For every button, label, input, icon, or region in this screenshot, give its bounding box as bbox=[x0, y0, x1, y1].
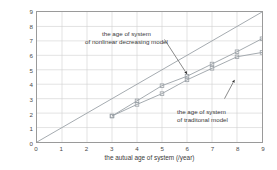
y-tick-label: 9 bbox=[23, 8, 33, 15]
x-tick-label: 1 bbox=[59, 145, 62, 152]
traditional-annotation-line2: of traditonal model bbox=[177, 116, 228, 124]
x-tick-label: 0 bbox=[34, 145, 37, 152]
y-tick-label: 4 bbox=[23, 81, 33, 88]
plot-area: the age of system of nonlinear decreasin… bbox=[36, 11, 263, 143]
y-tick-label: 3 bbox=[23, 96, 33, 103]
nonlinear-annotation-line1: the age of system bbox=[85, 30, 168, 38]
x-axis-title: the autual age of system (/year) bbox=[36, 154, 263, 161]
y-tick-label: 5 bbox=[23, 66, 33, 73]
x-tick-label: 9 bbox=[261, 145, 264, 152]
nonlinear-annotation-line2: of nonlinear decreasing model bbox=[85, 38, 168, 46]
y-tick-label: 1 bbox=[23, 125, 33, 132]
chart-figure: the equivalent age of system (/year) the… bbox=[0, 0, 277, 170]
x-tick-label: 3 bbox=[110, 145, 113, 152]
x-tick-label: 6 bbox=[186, 145, 189, 152]
traditional-annotation-line1: the age of system bbox=[177, 108, 228, 116]
x-tick-label: 8 bbox=[236, 145, 239, 152]
y-tick-label: 6 bbox=[23, 52, 33, 59]
x-tick-label: 7 bbox=[211, 145, 214, 152]
x-tick-label: 4 bbox=[135, 145, 138, 152]
y-tick-label: 2 bbox=[23, 110, 33, 117]
y-tick-label: 0 bbox=[23, 140, 33, 147]
x-tick-label: 5 bbox=[160, 145, 163, 152]
y-tick-label: 7 bbox=[23, 37, 33, 44]
nonlinear-model-annotation: the age of system of nonlinear decreasin… bbox=[85, 30, 168, 46]
traditional-model-callout-arrow bbox=[225, 80, 235, 99]
traditional-model-annotation: the age of system of traditonal model bbox=[177, 108, 228, 124]
x-tick-label: 2 bbox=[85, 145, 88, 152]
y-tick-label: 8 bbox=[23, 22, 33, 29]
